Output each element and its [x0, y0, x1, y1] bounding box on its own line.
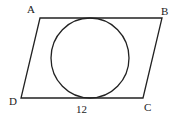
parallelogram-abcd: [21, 18, 162, 98]
vertex-label-b: B: [161, 5, 168, 17]
vertex-label-d: D: [9, 95, 17, 107]
vertex-label-a: A: [27, 3, 35, 15]
vertex-label-c: C: [144, 101, 151, 113]
diagram-canvas: A B C D 12: [0, 0, 172, 116]
inscribed-circle: [51, 18, 129, 98]
side-length-label: 12: [76, 103, 87, 115]
